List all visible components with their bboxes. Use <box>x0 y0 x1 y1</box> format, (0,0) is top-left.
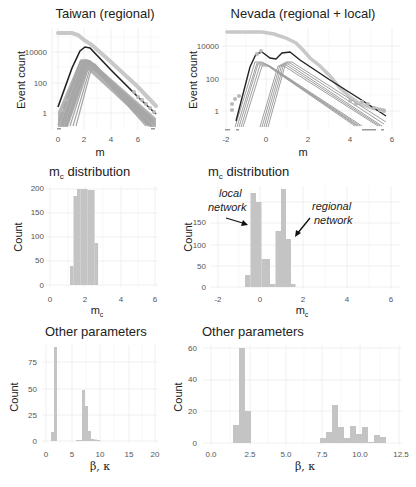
x-tick-label: 20 <box>151 450 160 459</box>
annotation-text: local <box>219 187 242 199</box>
annotation-text: network <box>208 201 247 213</box>
x-axis-label: mc <box>296 304 309 318</box>
y-tick-label: 150 <box>193 218 207 227</box>
panel-title: Other parameters <box>202 324 304 339</box>
y-tick-label: 10000 <box>197 42 220 51</box>
panel-nevada-fmd: Nevada (regional + local) 10000 100 1 -2… <box>187 6 400 158</box>
x-tick-label: 0 <box>44 450 49 459</box>
rug-mark <box>236 129 239 131</box>
x-tick-label: 2 <box>306 135 311 144</box>
x-tick-label: 6 <box>390 135 395 144</box>
y-tick-label: 75 <box>28 358 37 367</box>
histogram-bars <box>245 189 296 287</box>
y-tick-label: 100 <box>206 75 220 84</box>
y-axis-label: Count <box>172 382 184 411</box>
panel-taiwan-fmd: Taiwan (regional) 10000 100 1 0 2 4 6 m … <box>15 6 160 158</box>
y-tick-label: 20 <box>188 407 197 416</box>
grid <box>42 345 158 443</box>
panel-taiwan-mc: mc distribution 200 150 100 <box>12 164 158 318</box>
panel-nevada-mc: mc distribution <box>182 164 400 318</box>
panel-title: Nevada (regional + local) <box>231 6 376 21</box>
y-tick-label: 25 <box>28 411 37 420</box>
x-axis-label: m <box>95 146 104 158</box>
y-tick-label: 50 <box>28 385 37 394</box>
x-tick-label: 5 <box>70 450 75 459</box>
y-tick-label: 150 <box>31 208 45 217</box>
x-tick-label: 6 <box>389 295 394 304</box>
x-tick-label: 0 <box>258 295 263 304</box>
x-tick-label: 2 <box>82 135 87 144</box>
x-tick-label: 6 <box>153 295 158 304</box>
x-tick-label: 5.0 <box>280 450 292 459</box>
rug-mark <box>57 128 61 130</box>
x-tick-label: 15 <box>125 450 134 459</box>
grid <box>46 186 158 287</box>
y-tick-label: 0 <box>193 439 198 448</box>
y-tick-label: 40 <box>188 375 197 384</box>
y-tick-label: 200 <box>31 184 45 193</box>
x-tick-label: 2 <box>301 295 306 304</box>
y-tick-label: 1 <box>43 109 48 118</box>
x-tick-label: 4 <box>345 295 350 304</box>
x-tick-label: 0 <box>56 135 61 144</box>
y-axis-label: Event count <box>187 51 199 109</box>
x-tick-label: 6 <box>136 135 141 144</box>
y-tick-label: 0 <box>40 281 45 290</box>
x-tick-label: 2.5 <box>244 450 256 459</box>
y-tick-label: 50 <box>197 262 206 271</box>
x-tick-label: 12.5 <box>393 450 409 459</box>
panel-title: Taiwan (regional) <box>56 6 155 21</box>
x-tick-label: 10.0 <box>352 450 368 459</box>
grid <box>203 345 402 445</box>
y-axis-label: Event count <box>15 51 27 109</box>
x-axis-label: mc <box>91 304 104 318</box>
arrow-icon <box>297 218 310 234</box>
histogram-bars <box>233 348 386 443</box>
y-axis-label: Count <box>12 222 24 251</box>
rug-mark <box>151 128 155 130</box>
annotation-regional-network: regional network <box>295 200 353 237</box>
x-tick-label: 4 <box>109 135 114 144</box>
annotation-text: network <box>314 214 353 226</box>
x-tick-label: -2 <box>214 295 222 304</box>
rug-mark <box>381 129 384 131</box>
y-axis-label: Count <box>182 222 194 251</box>
y-tick-label: 0 <box>202 283 207 292</box>
y-tick-label: 0 <box>33 437 38 446</box>
x-tick-label: 4 <box>119 295 124 304</box>
panel-title: mc distribution <box>208 164 289 181</box>
x-tick-label: 7.5 <box>316 450 328 459</box>
x-axis-label: m <box>298 146 307 158</box>
histogram-bars <box>70 189 98 285</box>
x-tick-label: 0.0 <box>205 450 217 459</box>
x-tick-label: 4 <box>348 135 353 144</box>
panel-nevada-params: Other parameters <box>172 324 409 473</box>
y-tick-label: 1 <box>215 107 220 116</box>
y-tick-label: 50 <box>35 256 44 265</box>
annotation-local-network: local network <box>208 187 248 226</box>
y-tick-label: 100 <box>193 241 207 250</box>
rug-mark <box>225 129 230 131</box>
panel-title: mc distribution <box>49 164 130 181</box>
y-tick-label: 100 <box>31 232 45 241</box>
panel-taiwan-params: Other parameters <box>8 324 160 473</box>
x-tick-label: 2 <box>83 295 88 304</box>
figure: Taiwan (regional) 10000 100 1 0 2 4 6 m … <box>0 0 416 487</box>
x-tick-label: -2 <box>222 135 230 144</box>
rug-mark <box>362 129 376 131</box>
annotation-text: regional <box>312 200 352 212</box>
x-tick-label: 0 <box>48 295 53 304</box>
x-tick-label: 0 <box>264 135 269 144</box>
y-tick-label: 10000 <box>25 48 48 57</box>
y-axis-label: Count <box>8 382 20 411</box>
x-tick-label: 10 <box>96 450 105 459</box>
x-axis-label: β, κ <box>90 460 110 473</box>
histogram-bars <box>51 347 100 441</box>
x-axis-label: β, κ <box>295 460 315 473</box>
y-tick-label: 100 <box>34 79 48 88</box>
panel-title: Other parameters <box>45 324 147 339</box>
y-tick-label: 60 <box>188 344 197 353</box>
